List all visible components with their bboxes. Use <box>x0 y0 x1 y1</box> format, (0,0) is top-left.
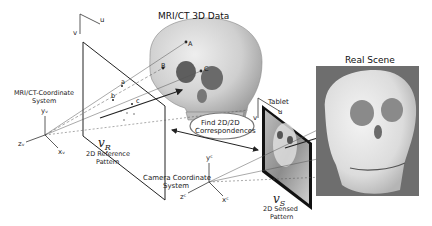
photo-eye-socket-right <box>381 98 403 122</box>
mri-z-axis-label: zᵥ <box>18 140 25 148</box>
camera-x-axis-label: xᶜ <box>222 196 229 204</box>
reference-v-label: v <box>73 29 77 37</box>
registration-diagram <box>0 0 432 226</box>
camera-z-axis-label: zᶜ <box>180 193 186 201</box>
reference-u-label: u <box>100 16 104 24</box>
sensed-pattern-label-1: 2D Sensed <box>263 205 298 213</box>
real-scene-photo <box>316 66 419 196</box>
reference-point-b: b <box>111 92 115 100</box>
real-scene-title: Real Scene <box>345 56 395 64</box>
mri-coordinate-label-1: MRI/CT-Coordinate <box>14 89 74 97</box>
sensed-u-label: u <box>278 108 282 116</box>
reference-point-a: a <box>121 78 125 86</box>
photo-eye-socket-left <box>350 100 374 126</box>
reference-pattern-label-1: 2D Reference <box>86 150 130 158</box>
skull-nasal-cavity <box>197 89 207 103</box>
mri-ct-title: MRI/CT 3D Data <box>158 12 229 20</box>
reference-plane <box>80 14 165 200</box>
correspondence-label-1: Find 2D/2D <box>201 119 240 127</box>
skull-label-C: C <box>204 65 209 73</box>
mri-y-axis-label: yᵥ <box>41 107 48 115</box>
skull-label-A: A <box>188 40 192 48</box>
mri-coordinate-axes <box>26 116 58 148</box>
sensed-v-label: v <box>253 114 257 122</box>
reference-point-c: c <box>136 97 140 105</box>
camera-coordinate-label-1: Camera Coordinate <box>143 174 211 182</box>
photo-nasal-cavity <box>374 125 382 139</box>
camera-coordinate-label-2: System <box>163 182 189 190</box>
camera-y-axis-label: yᶜ <box>206 154 213 162</box>
mri-coordinate-label-2: System <box>32 97 56 105</box>
sensed-pattern-label-2: Pattern <box>270 213 293 221</box>
tablet-label: Tablet <box>268 98 289 106</box>
reference-pattern-label-2: Pattern <box>96 158 119 166</box>
skull-eye-socket-left <box>176 61 196 83</box>
mri-x-axis-label: xᵥ <box>58 148 65 156</box>
skull-label-B: B <box>161 62 165 70</box>
correspondence-label-2: Correspondences <box>195 127 256 135</box>
